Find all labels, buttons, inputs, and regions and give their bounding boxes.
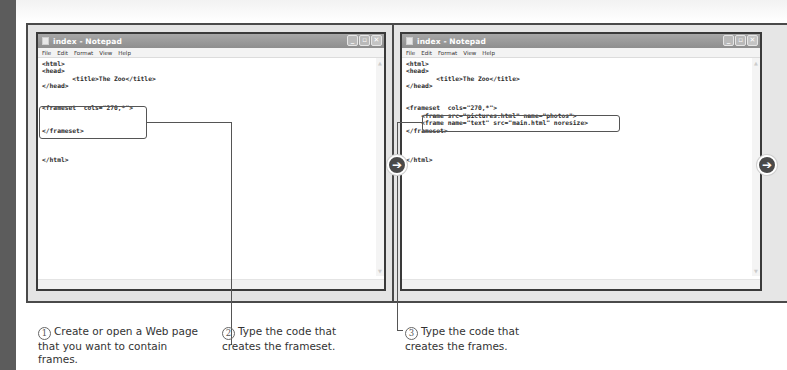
scroll-up-icon[interactable]: ▲	[377, 60, 383, 66]
horizontal-scrollbar[interactable]	[402, 279, 760, 289]
menu-edit[interactable]: Edit	[57, 50, 68, 56]
minimize-button[interactable]: _	[723, 35, 734, 46]
callout-line-step2-horizontal	[147, 122, 231, 123]
code-line: <html>	[42, 60, 380, 67]
scroll-down-icon[interactable]: ▼	[753, 268, 759, 274]
window-title: index - Notepad	[53, 37, 122, 46]
next-arrow-icon[interactable]: ➔	[387, 155, 407, 175]
callout-line-step3-foot	[397, 330, 403, 331]
code-line: </html>	[406, 156, 756, 163]
step-1-caption: 1Create or open a Web page that you want…	[38, 325, 208, 366]
code-line	[42, 141, 380, 148]
code-line	[42, 90, 380, 97]
code-line: <html>	[406, 60, 756, 67]
menu-help[interactable]: Help	[482, 50, 495, 56]
menu-edit[interactable]: Edit	[421, 50, 432, 56]
step-text: Type the code that creates the frames.	[405, 325, 519, 352]
top-background	[16, 0, 787, 22]
menu-bar: File Edit Format View Help	[38, 48, 384, 58]
notepad-icon	[406, 37, 413, 45]
callout-line-step3-vertical	[397, 122, 398, 330]
menu-format[interactable]: Format	[438, 50, 457, 56]
code-line	[42, 149, 380, 156]
menu-view[interactable]: View	[99, 50, 112, 56]
tutorial-figure: index - Notepad _ ▫ ✕ File Edit Format V…	[0, 0, 787, 370]
step-text: Create or open a Web page that you want …	[38, 325, 198, 365]
notepad-window-right: index - Notepad _ ▫ ✕ File Edit Format V…	[400, 32, 762, 291]
window-controls: _ ▫ ✕	[723, 35, 758, 46]
menu-format[interactable]: Format	[74, 50, 93, 56]
menu-view[interactable]: View	[463, 50, 476, 56]
maximize-button[interactable]: ▫	[359, 35, 370, 46]
horizontal-scrollbar[interactable]	[38, 279, 384, 289]
title-bar[interactable]: index - Notepad _ ▫ ✕	[38, 34, 384, 48]
menu-help[interactable]: Help	[118, 50, 131, 56]
code-line: <title>The Zoo</title>	[42, 75, 380, 82]
code-line	[406, 97, 756, 104]
text-editor-area[interactable]: <html> <head> <title>The Zoo</title> </h…	[38, 58, 384, 276]
frames-highlight-box	[422, 115, 620, 132]
step-number-badge: 1	[38, 327, 51, 340]
page-edge-strip	[0, 0, 16, 370]
step-2-caption: 2Type the code that creates the frameset…	[222, 325, 362, 353]
window-title: index - Notepad	[417, 37, 486, 46]
title-bar[interactable]: index - Notepad _ ▫ ✕	[402, 34, 760, 48]
code-line: </html>	[42, 156, 380, 163]
code-line: <head>	[406, 67, 756, 74]
code-line	[406, 90, 756, 97]
minimize-button[interactable]: _	[347, 35, 358, 46]
code-line	[406, 141, 756, 148]
close-button[interactable]: ✕	[371, 35, 382, 46]
maximize-button[interactable]: ▫	[735, 35, 746, 46]
close-button[interactable]: ✕	[747, 35, 758, 46]
menu-file[interactable]: File	[406, 50, 415, 56]
code-line	[406, 134, 756, 141]
step-text: Type the code that creates the frameset.	[222, 325, 336, 352]
code-line	[406, 149, 756, 156]
frameset-highlight-box	[39, 106, 147, 139]
step-number-badge: 3	[405, 327, 418, 340]
text-editor-area[interactable]: <html> <head> <title>The Zoo</title> </h…	[402, 58, 760, 276]
scroll-down-icon[interactable]: ▼	[377, 268, 383, 274]
step-3-caption: 3Type the code that creates the frames.	[405, 325, 545, 353]
step-number-badge: 2	[222, 327, 235, 340]
vertical-scrollbar[interactable]: ▲ ▼	[376, 58, 384, 276]
notepad-icon	[42, 37, 49, 45]
notepad-window-left: index - Notepad _ ▫ ✕ File Edit Format V…	[36, 32, 386, 291]
code-line: <title>The Zoo</title>	[406, 75, 756, 82]
code-line	[42, 97, 380, 104]
menu-file[interactable]: File	[42, 50, 51, 56]
callout-line-step3-horizontal	[397, 122, 422, 123]
callout-line-step2-vertical	[231, 122, 232, 345]
code-line: </head>	[42, 82, 380, 89]
menu-bar: File Edit Format View Help	[402, 48, 760, 58]
code-line: </head>	[406, 82, 756, 89]
code-line: <head>	[42, 67, 380, 74]
window-controls: _ ▫ ✕	[347, 35, 382, 46]
code-line: <frameset cols="270,*">	[406, 104, 756, 111]
next-arrow-icon[interactable]: ➔	[757, 155, 777, 175]
scroll-up-icon[interactable]: ▲	[753, 60, 759, 66]
